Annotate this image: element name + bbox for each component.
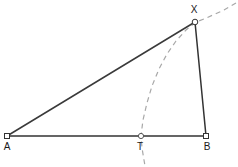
segment-xb <box>195 22 206 136</box>
vertex-label-a: A <box>4 141 11 152</box>
arc-xt-dashed <box>141 3 236 166</box>
vertex-label-x: X <box>191 4 198 15</box>
segment-ax <box>7 22 195 136</box>
vertex-label-t: T <box>137 141 143 152</box>
point-marker-x <box>192 19 198 25</box>
geometry-figure: A T B X <box>0 0 238 167</box>
figure-canvas: A T B X <box>0 0 238 167</box>
point-marker-b <box>204 134 209 139</box>
point-marker-a <box>5 134 10 139</box>
point-marker-t <box>138 133 143 138</box>
vertex-label-b: B <box>204 141 211 152</box>
